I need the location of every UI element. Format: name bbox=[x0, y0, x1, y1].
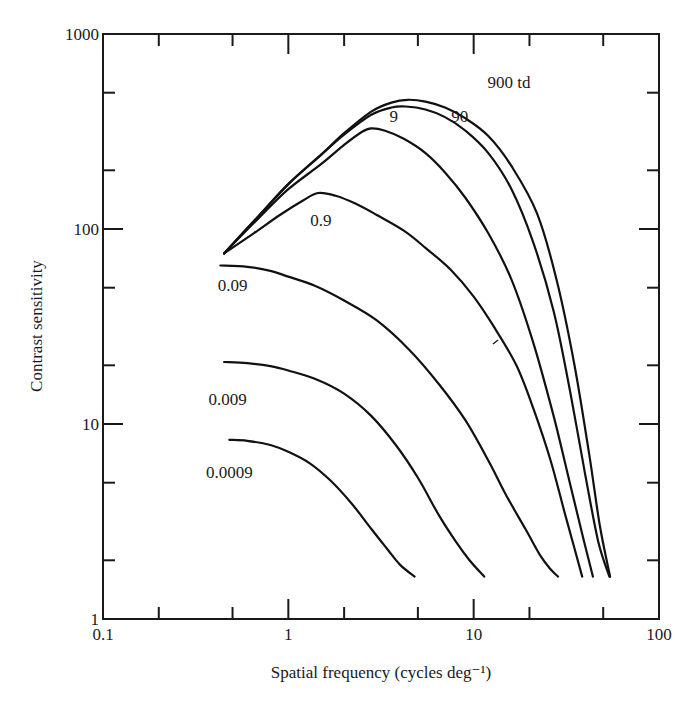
curve-0-9-td bbox=[224, 193, 582, 577]
curve-label: 0.09 bbox=[218, 276, 248, 295]
curve-label: 900 td bbox=[487, 73, 530, 92]
curve-label: 9 bbox=[389, 107, 398, 126]
x-tick-label: 100 bbox=[646, 625, 672, 644]
axis-ticks bbox=[103, 34, 659, 619]
curve-0-09-td bbox=[220, 266, 558, 577]
curve-label: 90 bbox=[451, 107, 468, 126]
contrast-sensitivity-chart: 0.11101001101001000 900 td9090.90.090.00… bbox=[0, 0, 698, 707]
stray-mark bbox=[493, 340, 498, 344]
curve-label: 0.9 bbox=[310, 211, 331, 230]
curve-label: 0.0009 bbox=[206, 463, 253, 482]
curve-9-td bbox=[224, 128, 593, 576]
curve-labels: 900 td9090.90.090.0090.0009 bbox=[206, 73, 531, 482]
curve-0-009-td bbox=[224, 362, 484, 577]
y-axis-title: Contrast sensitivity bbox=[27, 260, 46, 392]
x-axis-title: Spatial frequency (cycles deg⁻¹) bbox=[271, 663, 491, 682]
curve-900-td bbox=[224, 100, 610, 577]
curves bbox=[220, 100, 610, 577]
y-tick-label: 1000 bbox=[65, 25, 99, 44]
plot-frame bbox=[103, 34, 659, 619]
y-tick-label: 100 bbox=[74, 220, 100, 239]
x-tick-label: 10 bbox=[465, 625, 482, 644]
x-tick-label: 1 bbox=[284, 625, 293, 644]
curve-90-td bbox=[224, 106, 609, 576]
y-tick-label: 10 bbox=[82, 415, 99, 434]
curve-0-0009-td bbox=[229, 440, 414, 577]
curve-label: 0.009 bbox=[208, 390, 246, 409]
y-tick-label: 1 bbox=[91, 610, 100, 629]
